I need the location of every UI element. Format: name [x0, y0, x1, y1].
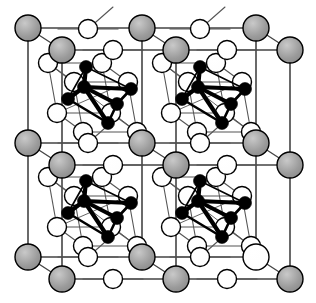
- white-atom-edge: [218, 156, 237, 175]
- gray-atom-back: [163, 37, 189, 63]
- cluster-satellite-atom: [125, 83, 138, 96]
- crystal-structure-canvas: [0, 0, 316, 303]
- white-atom-large: [243, 244, 269, 270]
- white-atom-edge: [218, 41, 237, 60]
- white-atom: [48, 218, 67, 237]
- white-atom-edge: [191, 20, 210, 39]
- white-atom-edge: [218, 270, 237, 289]
- cluster-bond: [84, 87, 131, 89]
- cluster-satellite-atom: [102, 231, 115, 244]
- white-atom-edge: [104, 270, 123, 289]
- cluster-bond: [84, 201, 131, 203]
- white-atom: [162, 218, 181, 237]
- cluster-center-atom: [192, 81, 205, 94]
- cluster-satellite-atom: [216, 117, 229, 130]
- gray-atom-back: [163, 152, 189, 178]
- white-atom-edge: [104, 156, 123, 175]
- cluster-satellite-atom: [80, 61, 93, 74]
- white-atom: [48, 104, 67, 123]
- gray-atom-back: [277, 266, 303, 292]
- cluster-center-atom: [192, 195, 205, 208]
- gray-atom-back: [49, 266, 75, 292]
- cluster-satellite-atom: [225, 212, 238, 225]
- cluster-center-atom: [78, 81, 91, 94]
- white-atom-edge: [191, 134, 210, 153]
- white-atom: [162, 104, 181, 123]
- gray-atom-back: [277, 152, 303, 178]
- white-atom-edge: [191, 248, 210, 267]
- crystal-structure-figure: [0, 0, 316, 303]
- cluster-satellite-atom: [194, 175, 207, 188]
- gray-atom-back: [277, 37, 303, 63]
- cluster-bond: [198, 201, 245, 203]
- cluster-center-atom: [78, 195, 91, 208]
- gray-atom-front: [129, 130, 155, 156]
- cluster-satellite-atom: [216, 231, 229, 244]
- cluster-satellite-atom: [102, 117, 115, 130]
- white-atom-edge: [104, 41, 123, 60]
- cluster-satellite-atom: [62, 207, 75, 220]
- cluster-bond: [198, 87, 245, 89]
- gray-atom-front: [15, 244, 41, 270]
- cluster-satellite-atom: [239, 197, 252, 210]
- white-atom-edge: [79, 20, 98, 39]
- cluster-satellite-atom: [176, 93, 189, 106]
- gray-atom-back: [163, 266, 189, 292]
- gray-atom-front: [243, 15, 269, 41]
- cluster-satellite-atom: [194, 61, 207, 74]
- gray-atom-front: [243, 130, 269, 156]
- gray-atom-back: [49, 152, 75, 178]
- cluster-satellite-atom: [176, 207, 189, 220]
- cluster-satellite-atom: [111, 212, 124, 225]
- white-atom-edge: [79, 248, 98, 267]
- gray-atom-front: [15, 130, 41, 156]
- gray-atom-front: [15, 15, 41, 41]
- cluster-satellite-atom: [80, 175, 93, 188]
- gray-atom-front: [129, 244, 155, 270]
- cluster-satellite-atom: [239, 83, 252, 96]
- gray-atom-front: [129, 15, 155, 41]
- white-atom-edge: [79, 134, 98, 153]
- cluster-satellite-atom: [62, 93, 75, 106]
- cluster-satellite-atom: [225, 98, 238, 111]
- cluster-satellite-atom: [111, 98, 124, 111]
- gray-atom-back: [49, 37, 75, 63]
- cluster-satellite-atom: [125, 197, 138, 210]
